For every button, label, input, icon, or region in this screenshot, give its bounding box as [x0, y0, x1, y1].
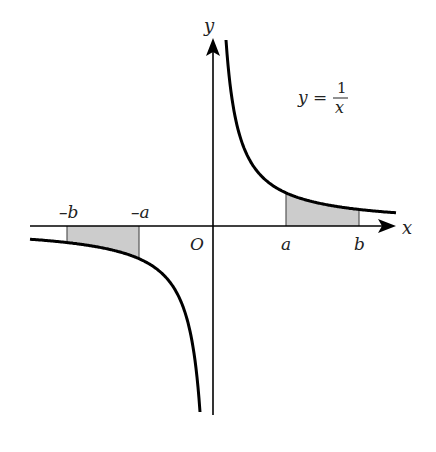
curve-right-branch: [226, 40, 396, 213]
tick-label-neg-a: –a: [131, 202, 150, 222]
tick-label-neg-b: –b: [59, 202, 78, 222]
hyperbola-diagram: y x O –b –a a b y = 1 x: [0, 0, 436, 452]
tick-label-b: b: [354, 234, 365, 254]
equation-lhs: y =: [297, 87, 327, 107]
x-axis-label: x: [402, 217, 412, 238]
y-axis-label: y: [203, 15, 215, 36]
origin-label: O: [190, 234, 204, 254]
curve-left-branch: [30, 239, 200, 412]
tick-label-a: a: [281, 234, 291, 254]
equation-numerator: 1: [337, 79, 347, 97]
equation-denominator: x: [335, 98, 344, 117]
